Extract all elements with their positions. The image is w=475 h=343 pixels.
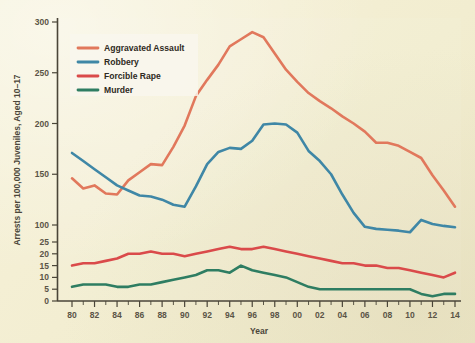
- legend-label-forcible-rape: Forcible Rape: [104, 71, 161, 81]
- y-axis-ticks: 0510152025100150200250300: [35, 17, 57, 306]
- x-tick-label: 82: [90, 310, 100, 320]
- y-tick-label: 5: [44, 284, 49, 294]
- y-tick-label: 15: [40, 261, 50, 271]
- line-chart: 0510152025100150200250300 80828486889092…: [0, 0, 475, 343]
- y-axis-title: Arrests per 100,000 Juveniles, Aged 10–1…: [12, 74, 22, 245]
- y-tick-label: 300: [35, 17, 49, 27]
- y-tick-label: 10: [40, 272, 50, 282]
- x-tick-label: 92: [202, 310, 212, 320]
- x-tick-label: 06: [360, 310, 370, 320]
- x-tick-label: 04: [338, 310, 348, 320]
- y-tick-label: 25: [40, 237, 50, 247]
- x-tick-label: 98: [270, 310, 280, 320]
- legend: Aggravated AssaultRobberyForcible RapeMu…: [70, 34, 198, 96]
- y-tick-label: 200: [35, 119, 49, 129]
- y-tick-label: 250: [35, 68, 49, 78]
- y-tick-label: 0: [44, 296, 49, 306]
- x-tick-label: 88: [157, 310, 167, 320]
- x-tick-label: 94: [225, 310, 235, 320]
- x-tick-label: 86: [135, 310, 145, 320]
- legend-label-robbery: Robbery: [104, 57, 139, 67]
- x-tick-label: 08: [383, 310, 393, 320]
- x-tick-label: 14: [450, 310, 460, 320]
- x-tick-label: 96: [248, 310, 258, 320]
- x-tick-label: 10: [405, 310, 415, 320]
- x-tick-label: 00: [293, 310, 303, 320]
- x-tick-label: 02: [315, 310, 325, 320]
- x-tick-label: 90: [180, 310, 190, 320]
- y-tick-label: 20: [40, 249, 50, 259]
- legend-label-aggravated-assault: Aggravated Assault: [104, 43, 185, 53]
- x-tick-label: 80: [67, 310, 77, 320]
- y-tick-label: 150: [35, 169, 49, 179]
- chart-canvas: 0510152025100150200250300 80828486889092…: [0, 0, 475, 343]
- y-tick-label: 100: [35, 220, 49, 230]
- x-tick-label: 12: [428, 310, 438, 320]
- x-tick-label: 84: [112, 310, 122, 320]
- x-axis-title: Year: [250, 326, 269, 336]
- legend-label-murder: Murder: [104, 85, 134, 95]
